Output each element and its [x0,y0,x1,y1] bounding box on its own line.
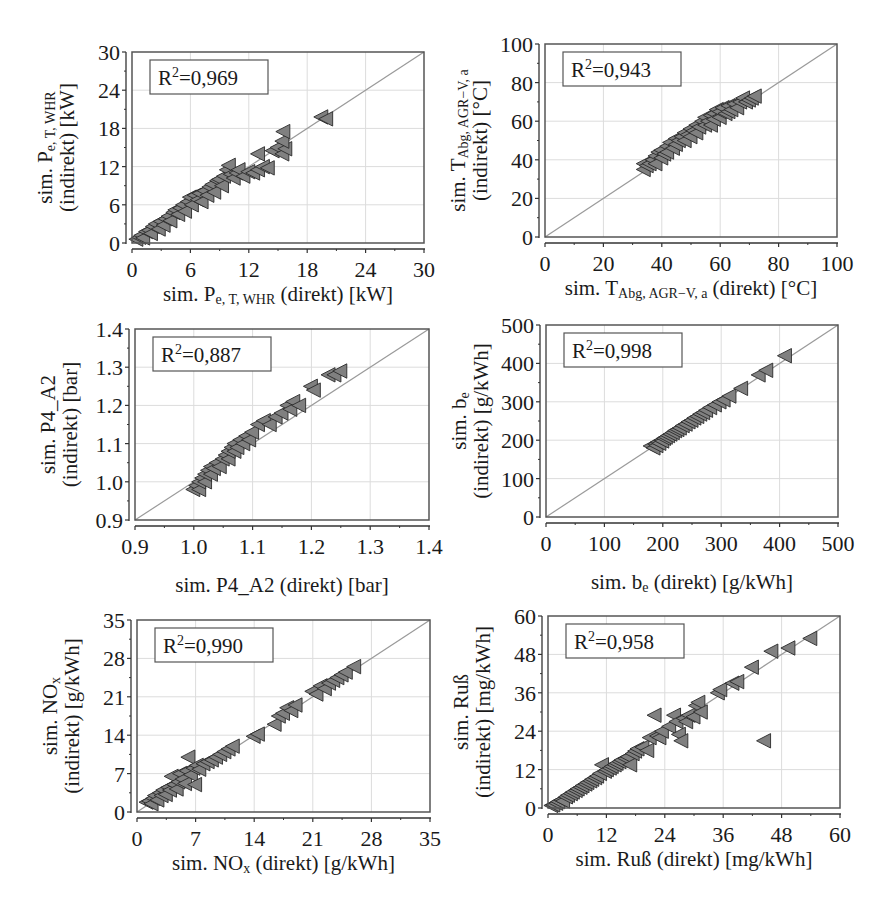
x-axis-label: sim. NOx (direkt) [g/kWh] [172,851,395,876]
x-axis-label: sim. Ruß (direkt) [mg/kWh] [576,847,813,871]
y-tick-label: 36 [514,681,536,706]
y-tick-label: 100 [500,32,533,57]
x-tick-label: 500 [822,531,855,556]
x-tick-label: 18 [296,257,318,282]
y-tick-label: 60 [511,109,533,134]
x-tick-label: 14 [243,826,265,851]
y-tick-label: 500 [501,313,534,338]
x-tick-label: 40 [651,251,673,276]
svg-text:sim. Ruß: sim. Ruß [449,674,473,750]
x-tick-label: 24 [355,257,377,282]
r-squared-box: R2=0,958 [566,624,684,658]
x-axis-label: sim. Pe, T, WHR (direkt) [kW] [163,282,393,307]
y-tick-label: 7 [114,762,125,787]
y-tick-label: 48 [514,642,536,667]
svg-text:(indirekt) [mg/kWh]: (indirekt) [mg/kWh] [471,626,495,798]
y-tick-label: 0 [525,796,536,821]
y-tick-label: 300 [501,390,534,415]
y-tick-label: 21 [103,685,125,710]
y-tick-label: 1.2 [96,393,124,418]
y-tick-label: 1.3 [96,355,124,380]
x-tick-label: 0.9 [121,534,149,559]
y-axis-label: sim. TAbg, AGR−V, a(indirekt) [°C] [446,68,492,211]
svg-text:(indirekt) [bar]: (indirekt) [bar] [58,362,82,487]
y-axis-label: sim. P4_A2(indirekt) [bar] [36,362,82,487]
x-tick-label: 48 [771,822,793,847]
y-tick-label: 0 [109,231,120,256]
y-tick-label: 40 [511,148,533,173]
y-axis-label: sim. be(indirekt) [g/kWh] [447,343,493,499]
x-tick-label: 60 [709,251,731,276]
y-tick-label: 60 [514,604,536,629]
y-tick-label: 1.0 [96,470,124,495]
x-tick-label: 0 [127,257,138,282]
svg-text:sim. P4_A2: sim. P4_A2 [36,375,60,474]
svg-text:(indirekt) [g/kWh]: (indirekt) [g/kWh] [469,343,493,499]
x-tick-label: 1.4 [415,534,443,559]
scatter-panel-p4_a2: 0.91.01.11.21.31.40.91.01.11.21.31.4sim.… [36,317,443,597]
x-tick-label: 200 [646,531,679,556]
svg-text:R2=0,943: R2=0,943 [571,57,651,82]
x-tick-label: 400 [763,531,796,556]
x-tick-label: 80 [768,251,790,276]
y-tick-label: 28 [103,646,125,671]
y-axis-label: sim. Pe, T, WHR(indirekt) [kW] [33,83,79,212]
y-tick-label: 0.9 [96,508,124,533]
figure-canvas: 06121824300612182430sim. Pe, T, WHR (dir… [0,0,886,909]
x-tick-label: 0 [543,822,554,847]
y-tick-label: 12 [514,758,536,783]
x-tick-label: 28 [360,826,382,851]
x-tick-label: 36 [712,822,734,847]
x-tick-label: 12 [238,257,260,282]
y-tick-label: 35 [103,608,125,633]
svg-text:(indirekt) [g/kWh]: (indirekt) [g/kWh] [60,638,84,794]
y-tick-label: 30 [98,40,120,65]
svg-text:R2=0,998: R2=0,998 [572,338,652,363]
svg-text:(indirekt) [kW]: (indirekt) [kW] [55,83,79,212]
svg-text:R2=0,887: R2=0,887 [161,342,241,367]
x-tick-label: 1.1 [239,534,267,559]
x-tick-label: 35 [419,826,441,851]
svg-text:R2=0,969: R2=0,969 [158,65,238,90]
y-tick-label: 200 [501,428,534,453]
y-axis-label: sim. NOx(indirekt) [g/kWh] [38,638,84,794]
x-tick-label: 300 [705,531,738,556]
x-tick-label: 24 [654,822,676,847]
y-tick-label: 20 [511,186,533,211]
svg-text:R2=0,958: R2=0,958 [574,629,654,654]
scatter-panel-b_e: 01002003004005000100200300400500sim. be … [447,313,855,595]
x-tick-label: 0 [541,531,552,556]
x-tick-label: 21 [302,826,324,851]
scatter-panel-no_x: 07142128350714212835sim. NOx (direkt) [g… [38,608,441,876]
y-tick-label: 400 [501,351,534,376]
r-squared-box: R2=0,969 [150,60,268,94]
x-tick-label: 0 [540,251,551,276]
y-tick-label: 24 [98,78,120,103]
scatter-panel-p_e_t_whr: 06121824300612182430sim. Pe, T, WHR (dir… [33,40,435,307]
svg-text:(indirekt) [°C]: (indirekt) [°C] [468,80,492,201]
x-tick-label: 0 [132,826,143,851]
x-tick-label: 7 [190,826,201,851]
x-tick-label: 6 [185,257,196,282]
y-tick-label: 80 [511,71,533,96]
x-tick-label: 60 [829,822,851,847]
x-tick-label: 100 [821,251,854,276]
y-tick-label: 14 [103,723,125,748]
y-tick-label: 1.1 [96,432,124,457]
x-tick-label: 12 [595,822,617,847]
x-tick-label: 100 [588,531,621,556]
x-axis-label: sim. P4_A2 (direkt) [bar] [175,573,388,597]
x-tick-label: 1.2 [298,534,326,559]
y-tick-label: 24 [514,719,536,744]
scatter-panel-t_abg_agr_v_a: 020406080100020406080100sim. TAbg, AGR−V… [446,32,854,301]
r-squared-box: R2=0,990 [155,628,273,662]
y-tick-label: 6 [109,193,120,218]
x-tick-label: 30 [413,257,435,282]
scatter-panel-russ: 0122436486001224364860sim. Ruß (direkt) … [449,604,851,871]
x-tick-label: 20 [592,251,614,276]
y-tick-label: 1.4 [96,317,124,342]
y-tick-label: 100 [501,467,534,492]
svg-text:R2=0,990: R2=0,990 [163,633,243,658]
r-squared-box: R2=0,998 [564,333,682,367]
x-tick-label: 1.3 [356,534,384,559]
